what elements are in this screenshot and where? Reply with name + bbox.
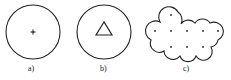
figure-canvas <box>0 0 231 80</box>
center-dots <box>154 14 219 48</box>
panel-a-label: a) <box>28 64 34 73</box>
cloud-outline <box>145 7 223 62</box>
panel-c <box>145 7 223 62</box>
panel-b-label: b) <box>100 64 107 73</box>
panel-b <box>77 5 131 59</box>
panel-a <box>6 5 60 59</box>
plus-icon <box>31 30 36 35</box>
panel-c-label: c) <box>183 64 189 73</box>
circle-b <box>77 5 131 59</box>
triangle-icon <box>96 22 112 35</box>
